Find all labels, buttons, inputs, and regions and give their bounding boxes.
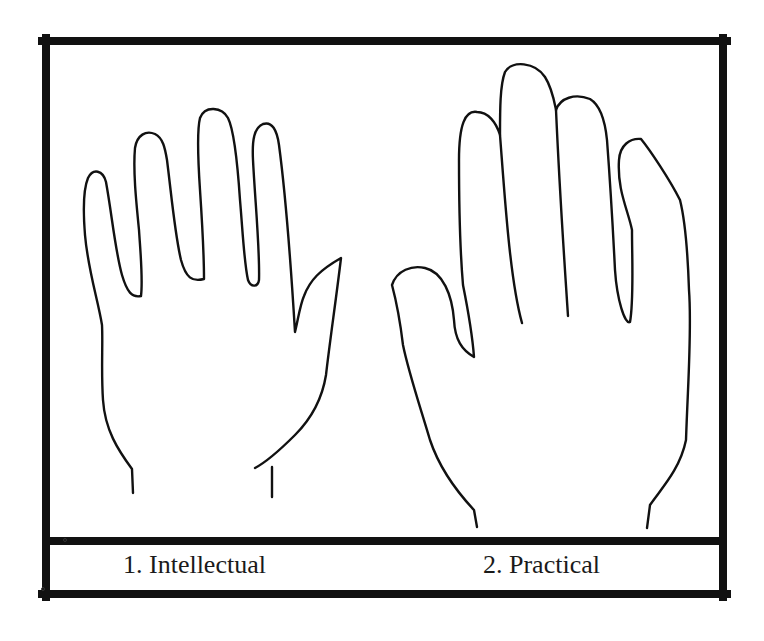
practical-hand-illustration	[392, 64, 690, 528]
intellectual-hand-illustration	[84, 109, 341, 497]
figure-artwork	[0, 0, 764, 641]
caption-intellectual: 1. Intellectual	[123, 552, 266, 578]
caption-practical: 2. Practical	[483, 552, 600, 578]
hand-types-figure: 1. Intellectual 2. Practical	[0, 0, 764, 641]
